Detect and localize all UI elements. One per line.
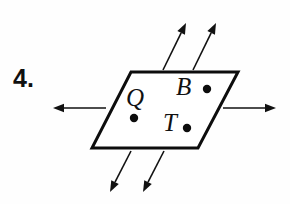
geometry-figure: 4. Q B T [0, 0, 290, 204]
point-label-q: Q [126, 85, 144, 110]
arrow-down-right-icon [143, 151, 164, 192]
problem-number: 4. [13, 66, 34, 91]
point-dot-b [203, 85, 211, 93]
point-label-b: B [176, 74, 191, 99]
point-label-t: T [163, 110, 177, 135]
point-dot-q [130, 114, 138, 122]
arrow-left-icon [53, 104, 106, 112]
arrow-down-left-icon [110, 151, 131, 192]
point-dot-t [183, 124, 191, 132]
arrow-up-left-icon [163, 23, 186, 70]
arrow-up-right-icon [193, 23, 216, 70]
arrow-right-icon [223, 104, 276, 112]
figure-canvas [0, 0, 290, 204]
